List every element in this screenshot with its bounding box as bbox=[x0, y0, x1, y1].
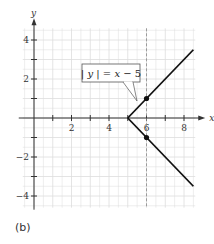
x-tick-label: 4 bbox=[106, 123, 112, 133]
y-tick-label: 4 bbox=[23, 35, 29, 45]
graph-line bbox=[128, 50, 194, 118]
x-axis-label: x bbox=[209, 113, 214, 123]
x-tick-label: 2 bbox=[69, 123, 75, 133]
figure-sub-label: (b) bbox=[15, 221, 31, 234]
y-axis-label: y bbox=[30, 8, 37, 18]
chart-plot: xy 246842−2−4 | y | = x − 5 bbox=[0, 0, 214, 244]
y-tick-label: −4 bbox=[16, 191, 30, 201]
data-point bbox=[144, 96, 149, 101]
x-tick-label: 8 bbox=[181, 123, 187, 133]
data-point bbox=[144, 135, 149, 140]
y-tick-label: −2 bbox=[16, 152, 29, 162]
axes: xy bbox=[19, 8, 214, 209]
y-tick-label: 2 bbox=[23, 74, 29, 84]
equation-label: | y | = x − 5 bbox=[81, 68, 141, 80]
